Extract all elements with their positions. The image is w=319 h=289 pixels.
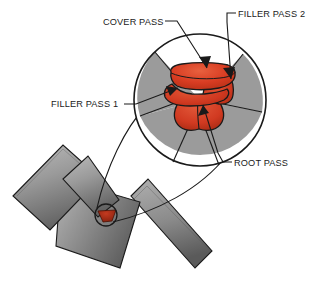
label-cover-pass: COVER PASS [103,17,164,27]
weld-pass-diagram: COVER PASS FILLER PASS 2 FILLER PASS 1 R… [0,0,319,289]
label-root-pass: ROOT PASS [234,158,288,168]
label-filler-pass-1: FILLER PASS 1 [51,99,118,109]
plate-angled [131,179,212,268]
diagram-canvas: COVER PASS FILLER PASS 2 FILLER PASS 1 R… [0,0,319,289]
label-filler-pass-2: FILLER PASS 2 [238,9,305,19]
plate-angled-body [131,179,212,268]
magnified-section [134,34,266,166]
